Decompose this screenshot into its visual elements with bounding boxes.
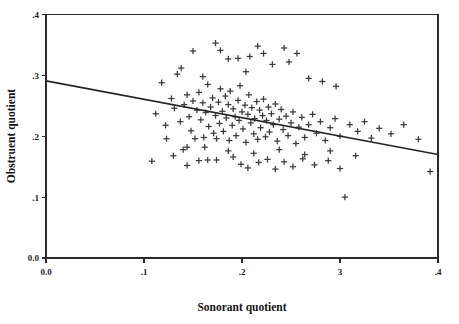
data-point	[286, 59, 292, 65]
data-point	[248, 120, 254, 126]
data-point	[283, 113, 289, 119]
data-point	[322, 137, 328, 143]
data-point	[306, 122, 312, 128]
data-point	[184, 162, 190, 168]
data-point	[280, 126, 286, 132]
data-point	[153, 111, 159, 117]
x-tick-label-4: .4	[435, 267, 442, 277]
data-point	[238, 161, 244, 167]
data-point	[190, 48, 196, 54]
data-point	[205, 157, 211, 163]
data-point	[260, 96, 266, 102]
data-point	[302, 134, 308, 140]
data-point	[201, 134, 207, 140]
data-point	[255, 136, 261, 142]
data-point	[215, 99, 221, 105]
data-point	[290, 109, 296, 115]
data-point	[293, 140, 299, 146]
data-point	[258, 125, 264, 131]
data-point	[353, 153, 359, 159]
data-point	[265, 104, 271, 110]
data-point	[319, 78, 325, 84]
data-point	[213, 136, 219, 142]
data-point	[212, 40, 218, 46]
data-point	[259, 112, 265, 118]
data-point	[200, 100, 206, 106]
data-point	[327, 125, 333, 131]
frame-rect	[46, 15, 438, 259]
data-point	[174, 71, 180, 77]
data-point	[246, 92, 252, 98]
data-point	[245, 165, 251, 171]
data-point	[251, 131, 257, 137]
data-point	[216, 120, 222, 126]
data-point	[208, 104, 214, 110]
data-point	[355, 128, 361, 134]
data-point	[229, 122, 235, 128]
data-point	[272, 166, 278, 172]
data-point	[268, 111, 274, 117]
data-point	[288, 120, 294, 126]
scatter-markers	[149, 40, 434, 200]
data-point	[196, 158, 202, 164]
data-point	[290, 164, 296, 170]
data-point	[401, 122, 407, 128]
data-point	[162, 122, 168, 128]
data-point	[237, 83, 243, 89]
data-point	[251, 150, 257, 156]
data-point	[168, 95, 174, 101]
data-point	[196, 89, 202, 95]
data-point	[210, 130, 216, 136]
data-point	[217, 86, 223, 92]
data-point	[202, 144, 208, 150]
data-point	[309, 111, 315, 117]
data-point	[299, 114, 305, 120]
data-point	[198, 117, 204, 123]
x-tick-label-0: 0.0	[40, 267, 52, 277]
data-point	[266, 129, 272, 135]
data-point	[264, 156, 270, 162]
data-point	[337, 165, 343, 171]
data-point	[325, 158, 331, 164]
data-point	[281, 45, 287, 51]
data-point	[225, 102, 231, 108]
y-tick-label-3: .3	[32, 71, 39, 81]
data-point	[230, 154, 236, 160]
data-point	[184, 92, 190, 98]
y-tick-label-0: 0.0	[28, 253, 40, 263]
data-point	[159, 80, 165, 86]
data-point	[149, 158, 155, 164]
data-point	[260, 50, 266, 56]
data-point	[269, 61, 275, 67]
data-point	[256, 159, 262, 165]
data-point	[278, 106, 284, 112]
x-tick-labels: 0.0 .1 .2 3 .4	[40, 267, 442, 277]
x-tick-label-1: .1	[141, 267, 148, 277]
data-point	[210, 95, 216, 101]
data-point	[188, 128, 194, 134]
data-point	[177, 119, 183, 125]
scatter-plot-figure: .4 .3 .2 .1 0.0 0.0 .1 .2 3 .4 Sonorant …	[0, 0, 459, 324]
plot-canvas: .4 .3 .2 .1 0.0 0.0 .1 .2 3 .4 Sonorant …	[0, 0, 459, 324]
data-point	[213, 157, 219, 163]
data-point	[243, 139, 249, 145]
data-point	[178, 65, 184, 71]
data-point	[262, 134, 268, 140]
data-point	[306, 75, 312, 81]
data-point	[249, 105, 255, 111]
data-point	[205, 81, 211, 87]
data-point	[276, 147, 282, 153]
y-tick-label-4: .4	[32, 10, 39, 20]
data-point	[294, 50, 300, 56]
y-tick-label-2: .2	[32, 132, 39, 142]
x-tick-label-2: .2	[239, 267, 246, 277]
data-point	[226, 137, 232, 143]
regression-line	[46, 81, 438, 155]
data-point	[388, 131, 394, 137]
data-point	[227, 88, 233, 94]
data-point	[243, 69, 249, 75]
data-point	[255, 43, 261, 49]
data-point	[368, 135, 374, 141]
data-point	[317, 119, 323, 125]
data-point	[225, 148, 231, 154]
